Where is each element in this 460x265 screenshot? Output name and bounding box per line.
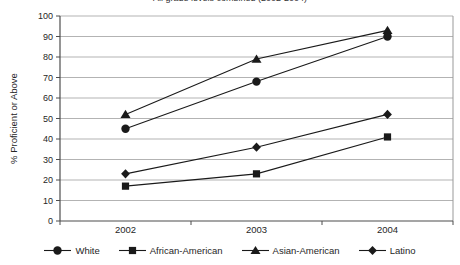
y-tick-label: 70 bbox=[43, 73, 53, 83]
circle-marker-icon bbox=[252, 77, 260, 85]
diamond-marker-icon bbox=[383, 110, 392, 119]
y-tick-label: 60 bbox=[43, 93, 53, 103]
triangle-marker-icon bbox=[121, 110, 131, 118]
diamond-marker-icon bbox=[252, 143, 261, 152]
y-tick-label: 0 bbox=[48, 216, 53, 226]
y-tick-label: 50 bbox=[43, 114, 53, 124]
y-tick-label: 30 bbox=[43, 155, 53, 165]
legend-label: Asian-American bbox=[273, 245, 340, 256]
y-tick-label: 80 bbox=[43, 52, 53, 62]
diamond-marker-icon bbox=[121, 169, 130, 178]
triangle-legend-icon bbox=[242, 245, 269, 256]
square-marker-icon bbox=[122, 183, 129, 190]
x-tick-label: 2003 bbox=[246, 224, 267, 235]
square-marker-icon bbox=[129, 247, 136, 254]
diamond-marker-icon bbox=[368, 246, 377, 255]
legend-label: White bbox=[75, 245, 99, 256]
legend-item-white: White bbox=[44, 245, 99, 256]
circle-legend-icon bbox=[44, 245, 71, 256]
y-tick-label: 90 bbox=[43, 32, 53, 42]
legend-item-latino: Latino bbox=[359, 245, 416, 256]
square-legend-icon bbox=[119, 245, 146, 256]
plot-area: 0102030405060708090100200220032004 bbox=[0, 0, 460, 242]
y-tick-label: 100 bbox=[38, 11, 53, 21]
chart-container: All grade levels combined (2002-2004) % … bbox=[0, 0, 460, 265]
y-tick-label: 10 bbox=[43, 196, 53, 206]
legend-label: Latino bbox=[390, 245, 416, 256]
x-tick-label: 2004 bbox=[377, 224, 398, 235]
y-tick-label: 20 bbox=[43, 175, 53, 185]
circle-marker-icon bbox=[54, 246, 62, 254]
series-line-asian-american bbox=[126, 30, 388, 114]
legend-label: African-American bbox=[150, 245, 223, 256]
x-tick-label: 2002 bbox=[115, 224, 136, 235]
diamond-legend-icon bbox=[359, 245, 386, 256]
square-marker-icon bbox=[384, 133, 391, 140]
legend-item-asian-american: Asian-American bbox=[242, 245, 340, 256]
legend: WhiteAfrican-AmericanAsian-AmericanLatin… bbox=[0, 245, 460, 256]
legend-item-african-american: African-American bbox=[119, 245, 223, 256]
circle-marker-icon bbox=[121, 125, 129, 133]
y-tick-label: 40 bbox=[43, 134, 53, 144]
square-marker-icon bbox=[253, 170, 260, 177]
triangle-marker-icon bbox=[383, 26, 393, 34]
